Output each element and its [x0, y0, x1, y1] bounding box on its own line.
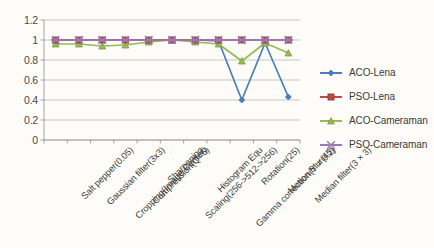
- y-axis-tick-label: 0.2: [4, 114, 38, 126]
- legend-item-label: PSO-Lena: [349, 91, 395, 102]
- legend-item-label: PSO-Cameraman: [349, 139, 427, 150]
- legend-item-pso-lena[interactable]: PSO-Lena: [320, 90, 395, 103]
- y-axis-tick-label: 0: [4, 134, 38, 146]
- legend-item-aco-lena[interactable]: ACO-Lena: [320, 66, 395, 79]
- legend-swatch-diamond-icon: [320, 72, 342, 74]
- y-axis-tick-label: 0.6: [4, 74, 38, 86]
- legend-item-pso-cameraman[interactable]: PSO-Cameraman: [320, 138, 427, 151]
- legend-item-aco-cameraman[interactable]: ACO-Cameraman: [320, 114, 428, 127]
- legend-swatch-square-icon: [320, 96, 342, 98]
- y-axis-tick-label: 1.2: [4, 14, 38, 26]
- y-axis-tick-label: 1: [4, 34, 38, 46]
- legend-swatch-triangle-icon: [320, 120, 342, 122]
- y-axis-tick-label: 0.4: [4, 94, 38, 106]
- y-axis-tick-label: 0.8: [4, 54, 38, 66]
- legend-item-label: ACO-Lena: [349, 67, 395, 78]
- chart-container: 00.20.40.60.811.2 Salt pepper(0.05)Gauss…: [0, 0, 434, 248]
- legend-swatch-cross-icon: [320, 144, 342, 146]
- legend-item-label: ACO-Cameraman: [349, 115, 428, 126]
